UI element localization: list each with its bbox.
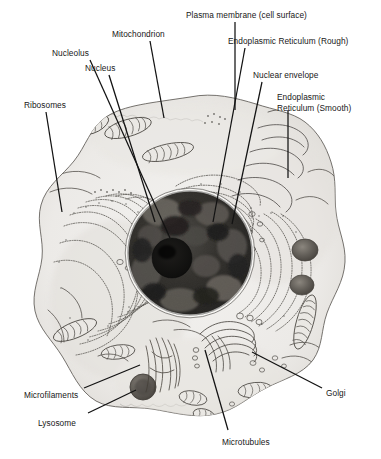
cell-diagram-figure: Plasma membrane (cell surface)Mitochondr… [0,0,381,459]
label-microtubules: Microtubules [222,437,270,448]
label-nucleolus: Nucleolus [52,48,89,59]
dense-granule [292,239,318,261]
lysosome [130,374,156,400]
label-golgi: Golgi [326,388,346,399]
label-plasma-membrane: Plasma membrane (cell surface) [186,10,307,21]
label-microfilaments: Microfilaments [24,390,78,401]
label-nuclear-envelope: Nuclear envelope [253,70,318,81]
dense-granule [290,275,314,295]
label-ribosomes: Ribosomes [24,100,66,111]
label-lysosome: Lysosome [38,418,76,429]
label-er-smooth: EndoplasmicReticulum (Smooth) [277,92,357,113]
nucleolus [152,238,192,278]
label-nucleus: Nucleus [85,63,115,74]
label-mitochondrion: Mitochondrion [112,29,165,40]
label-er-rough: Endoplasmic Reticulum (Rough) [228,36,348,47]
